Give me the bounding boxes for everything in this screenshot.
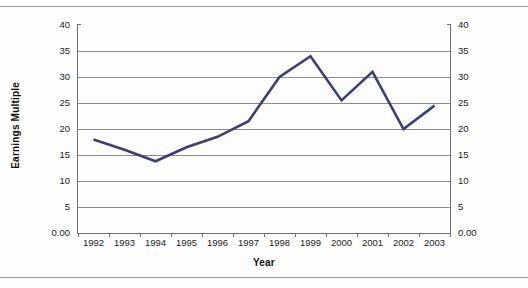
x-axis-tick [450, 233, 451, 237]
x-axis-tick [78, 233, 79, 237]
y-axis-tick-label-right: 5 [458, 202, 488, 212]
y-axis-tick-label-right: 10 [458, 176, 488, 186]
x-axis-tick-label: 2003 [415, 238, 455, 248]
x-axis-tick [264, 233, 265, 237]
y-axis-tick-label-left: 10 [40, 176, 70, 186]
y-axis-tick-label-left: 35 [40, 46, 70, 56]
chart-area: Earnings Multiple 4035302520151050.00 40… [0, 10, 528, 272]
x-axis-title: Year [0, 257, 528, 268]
y-axis-title: Earnings Multiple [10, 82, 21, 169]
y-axis-tick-label-right: 0.00 [458, 228, 488, 238]
line-series-earnings-multiple [78, 25, 450, 233]
figure-container: Earnings Multiple 4035302520151050.00 40… [0, 0, 528, 288]
y-axis-tick-label-left: 40 [40, 20, 70, 30]
x-axis-tick [171, 233, 172, 237]
y-axis-tick-label-left: 5 [40, 202, 70, 212]
page-rule-top [0, 6, 528, 7]
x-axis-tick [295, 233, 296, 237]
y-axis-tick-label-right: 15 [458, 150, 488, 160]
y-axis-tick-label-left: 0.00 [40, 228, 70, 238]
y-axis-tick-label-left: 25 [40, 98, 70, 108]
y-axis-line-right [450, 25, 451, 233]
plot-region [78, 25, 450, 233]
x-axis-tick [357, 233, 358, 237]
x-axis-tick [109, 233, 110, 237]
x-axis-tick [388, 233, 389, 237]
y-axis-tick-label-left: 15 [40, 150, 70, 160]
x-axis-tick [140, 233, 141, 237]
y-axis-tick-label-right: 25 [458, 98, 488, 108]
x-axis-tick [419, 233, 420, 237]
y-axis-tick-label-right: 40 [458, 20, 488, 30]
x-axis-tick [233, 233, 234, 237]
x-axis-tick [202, 233, 203, 237]
y-axis-tick-label-right: 30 [458, 72, 488, 82]
page-rule-bottom [0, 277, 528, 278]
y-axis-tick-label-right: 20 [458, 124, 488, 134]
x-axis-tick [326, 233, 327, 237]
y-axis-tick-label-right: 35 [458, 46, 488, 56]
y-axis-tick-label-left: 30 [40, 72, 70, 82]
y-axis-tick-label-left: 20 [40, 124, 70, 134]
